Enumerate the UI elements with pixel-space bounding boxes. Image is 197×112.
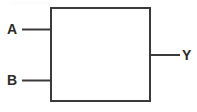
logic-diagram-canvas: A B Y [0, 0, 197, 112]
input-label-b: B [7, 73, 17, 87]
output-label-y: Y [182, 48, 191, 62]
input-label-a: A [7, 22, 17, 36]
logic-symbol-svg [0, 0, 197, 112]
logic-block-body [51, 8, 150, 101]
